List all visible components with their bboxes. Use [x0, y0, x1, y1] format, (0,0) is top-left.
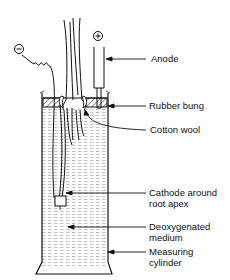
label-cathode-line2: root apex [149, 199, 189, 209]
arrow-icon [108, 250, 114, 254]
diagram-canvas [0, 0, 230, 280]
arrow-icon [106, 57, 112, 61]
label-cylinder-line2: cylinder [149, 258, 182, 268]
label-cotton-wool: Cotton wool [150, 125, 200, 135]
negative-terminal-icon [15, 45, 24, 54]
deoxygenated-medium [42, 107, 108, 267]
label-anode: Anode [151, 54, 178, 64]
label-medium-line2: medium [149, 233, 183, 243]
label-rubber-bung: Rubber bung [149, 101, 204, 111]
label-cylinder-line1: Measuring [149, 247, 193, 257]
label-medium-line1: Deoxygenated [149, 222, 210, 232]
measuring-cylinder [36, 91, 112, 274]
label-cathode-line1: Cathode around [149, 188, 217, 198]
positive-terminal-icon [94, 32, 103, 41]
cathode [55, 196, 66, 206]
arrow-icon [108, 104, 114, 108]
